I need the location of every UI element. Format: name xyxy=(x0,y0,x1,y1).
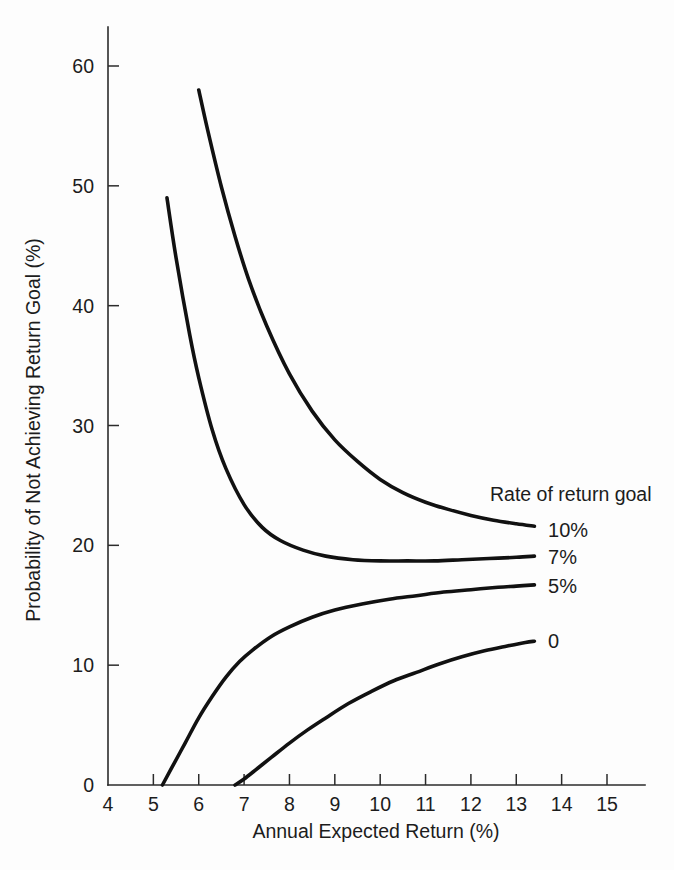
x-tick-label-15: 15 xyxy=(596,793,618,815)
data-series-group xyxy=(162,90,534,785)
y-axis-tick-labels: 0102030405060 xyxy=(72,55,94,796)
x-axis-ticks xyxy=(153,774,607,785)
x-tick-label-5: 5 xyxy=(148,793,159,815)
series-label-7pct: 7% xyxy=(548,546,577,568)
x-tick-label-7: 7 xyxy=(239,793,250,815)
x-tick-label-6: 6 xyxy=(193,793,204,815)
x-axis-tick-labels: 456789101112131415 xyxy=(103,793,618,815)
y-tick-label-60: 60 xyxy=(72,55,94,77)
curve-0 xyxy=(235,641,534,785)
curve-7pct xyxy=(167,198,534,561)
x-tick-label-10: 10 xyxy=(369,793,391,815)
x-tick-label-12: 12 xyxy=(460,793,482,815)
plot-axes xyxy=(108,27,645,785)
y-tick-label-10: 10 xyxy=(72,654,94,676)
series-label-5pct: 5% xyxy=(548,575,577,597)
series-labels-group: 10%7%5%0 xyxy=(548,519,588,652)
y-tick-label-50: 50 xyxy=(72,175,94,197)
x-axis-title: Annual Expected Return (%) xyxy=(252,820,499,842)
y-tick-label-0: 0 xyxy=(83,774,94,796)
x-tick-label-4: 4 xyxy=(103,793,114,815)
series-label-0: 0 xyxy=(548,630,559,652)
x-tick-label-14: 14 xyxy=(551,793,573,815)
y-axis-title: Probability of Not Achieving Return Goal… xyxy=(22,238,44,622)
series-label-10pct: 10% xyxy=(548,519,588,541)
y-tick-label-30: 30 xyxy=(72,415,94,437)
x-tick-label-9: 9 xyxy=(329,793,340,815)
curve-10pct xyxy=(199,90,535,526)
y-axis-ticks xyxy=(108,66,119,665)
x-tick-label-8: 8 xyxy=(284,793,295,815)
legend-title: Rate of return goal xyxy=(490,483,652,505)
x-tick-label-11: 11 xyxy=(415,793,435,815)
y-tick-label-20: 20 xyxy=(72,534,94,556)
probability-return-goal-chart: 0102030405060 456789101112131415 10%7%5%… xyxy=(0,0,674,870)
x-tick-label-13: 13 xyxy=(505,793,527,815)
chart-figure: 0102030405060 456789101112131415 10%7%5%… xyxy=(0,0,674,870)
curve-5pct xyxy=(162,585,534,785)
y-tick-label-40: 40 xyxy=(72,295,94,317)
